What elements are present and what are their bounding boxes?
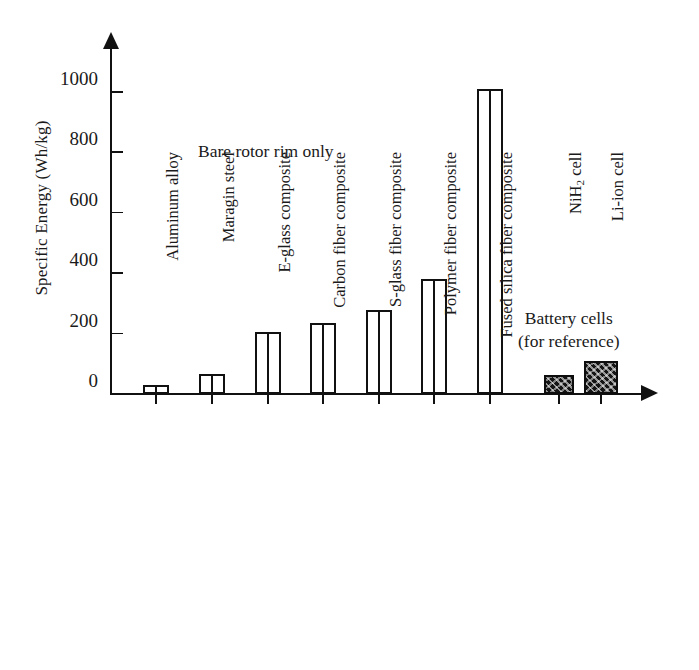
- x-tick-mark: [378, 395, 380, 404]
- x-axis-arrow-icon: [641, 385, 658, 401]
- y-tick-label: 800: [0, 128, 98, 150]
- x-axis-label-carbon-fiber-composite: Carbon fiber composite: [330, 152, 350, 412]
- y-tick-label: 200: [0, 310, 98, 332]
- x-axis-label-maragin-steel: Maragin steel: [219, 152, 239, 412]
- x-tick-mark: [558, 395, 560, 404]
- x-axis-label-s-glass-fiber-composite: S-glass fiber composite: [386, 152, 406, 412]
- bar-divider: [267, 334, 270, 392]
- x-axis-label-nih-cell: NiH2 cell: [566, 152, 586, 412]
- bar-divider: [155, 387, 158, 392]
- annotation-battery-cells: Battery cells (for reference): [518, 307, 620, 353]
- x-tick-mark: [211, 395, 213, 404]
- x-tick-mark: [267, 395, 269, 404]
- bar-divider: [433, 281, 436, 392]
- annotation-battery-line1: Battery cells: [518, 307, 620, 330]
- y-tick-label: 1000: [0, 68, 98, 90]
- bar-divider: [211, 376, 214, 392]
- bar-divider: [489, 91, 492, 392]
- x-axis-label-polymer-fiber-composite: Polymer fiber composite: [441, 152, 461, 412]
- bar-divider: [378, 312, 381, 392]
- y-tick-label: 0: [0, 370, 98, 392]
- annotation-battery-line2: (for reference): [518, 330, 620, 353]
- x-axis-label-li-ion-cell: Li-ion cell: [608, 152, 628, 412]
- x-tick-mark: [489, 395, 491, 404]
- x-axis-label-e-glass-composite: E-glass composite: [275, 152, 295, 412]
- bar-divider: [558, 377, 561, 392]
- x-tick-mark: [322, 395, 324, 404]
- bar-divider: [600, 363, 603, 392]
- y-tick-label: 600: [0, 189, 98, 211]
- x-tick-mark: [155, 395, 157, 404]
- x-tick-mark: [433, 395, 435, 404]
- annotation-bare-rotor: Bare rotor rim only: [198, 140, 334, 163]
- y-tick-label: 400: [0, 249, 98, 271]
- x-axis-label-aluminum-alloy: Aluminum alloy: [163, 152, 183, 412]
- bar-divider: [322, 325, 325, 392]
- bar-chart-figure: Specific Energy (Wh/kg) 1000800600400200…: [0, 0, 699, 670]
- x-tick-mark: [600, 395, 602, 404]
- x-axis-label-fused-silica-fiber-composite: Fused silica fiber composite: [497, 152, 517, 412]
